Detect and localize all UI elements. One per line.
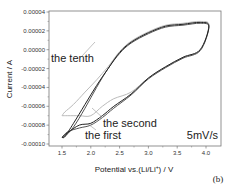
panel-label: (b): [213, 174, 224, 184]
y-axis-label: Current / A: [5, 59, 14, 98]
y-tick-label: 0.00004: [23, 9, 45, 15]
x-tick-label: 4.0: [202, 150, 211, 156]
y-tick-label: 0.00000: [23, 47, 45, 53]
y-axis-ticks: 0.000040.000020.00000-0.00002-0.00004-0.…: [21, 9, 49, 147]
x-tick-label: 2.0: [87, 150, 96, 156]
y-tick-label: -0.00004: [21, 84, 45, 90]
x-tick-label: 2.5: [115, 150, 124, 156]
y-tick-label: -0.00006: [21, 103, 45, 109]
annotation-pointer: [92, 108, 103, 118]
x-tick-label: 3.0: [144, 150, 153, 156]
annotation-the-tenth: the tenth: [51, 52, 94, 64]
x-tick-label: 3.5: [173, 150, 182, 156]
cv-chart: 0.000040.000020.00000-0.00002-0.00004-0.…: [0, 0, 238, 184]
annotation-the-second: the second: [103, 117, 157, 129]
y-tick-label: -0.00002: [21, 66, 45, 72]
cv-curve-the-tenth: [62, 21, 209, 116]
x-axis-ticks: 1.52.02.53.03.54.0: [58, 146, 211, 156]
annotation-the-first: the first: [85, 129, 121, 141]
x-axis-label: Potential vs.(Li/Li+) / V: [95, 164, 174, 174]
y-tick-label: -0.00008: [21, 122, 45, 128]
x-tick-label: 1.5: [58, 150, 67, 156]
y-tick-label: 0.00002: [23, 28, 45, 34]
annotation-5mv-s: 5mV/s: [187, 129, 219, 141]
y-tick-label: -0.00010: [21, 141, 45, 147]
